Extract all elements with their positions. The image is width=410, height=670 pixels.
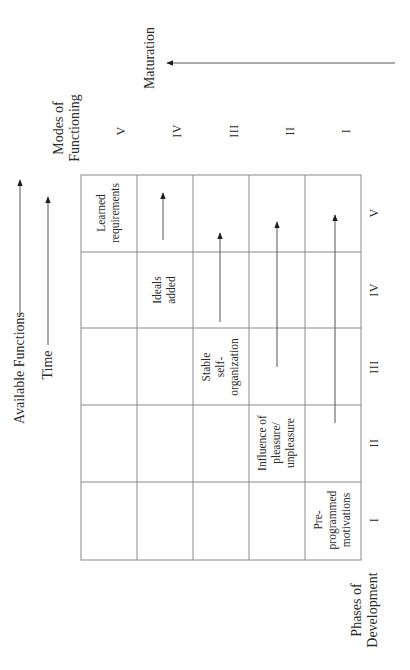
- phase-iv: IV: [368, 283, 382, 297]
- mode-i: I: [340, 129, 354, 134]
- cell-ideals-added: Ideals added: [151, 276, 179, 303]
- mode-iv: IV: [171, 124, 185, 138]
- available-functions-label: Available Functions: [12, 312, 28, 424]
- phase-v: V: [368, 208, 382, 217]
- maturation-label: Maturation: [142, 27, 158, 89]
- phase-i: I: [368, 518, 382, 523]
- mode-iii: III: [228, 124, 242, 138]
- time-label: Time: [40, 350, 56, 379]
- modes-of-functioning-label: Modes of Functioning: [51, 94, 83, 162]
- cell-stable-self-organization: Stable self- organization: [200, 338, 241, 395]
- mode-ii: II: [284, 127, 298, 136]
- cell-influence-of-pleasure: Influence of pleasure/ unpleasure: [256, 415, 297, 471]
- phase-iii: III: [368, 360, 382, 374]
- phase-ii: II: [368, 439, 382, 448]
- cell-learned-requirements: Learned requirements: [95, 183, 123, 243]
- cell-preprogrammed-motivations: Pre- programmed motivations: [312, 491, 353, 550]
- phases-of-development-label: Phases of Development: [349, 572, 381, 647]
- mode-v: V: [115, 126, 129, 135]
